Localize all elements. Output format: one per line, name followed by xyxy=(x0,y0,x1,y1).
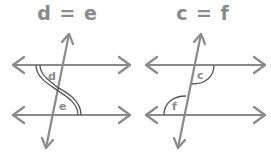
transversal-line xyxy=(178,34,201,148)
diagram-c-equals-f: c = f c f xyxy=(135,0,271,156)
parallel-lines-transversal-figure: c f xyxy=(135,0,271,156)
angle-label-d: d xyxy=(48,70,56,83)
parallel-lines-transversal-figure: d e xyxy=(0,0,135,156)
angle-label-c: c xyxy=(197,69,204,82)
angle-label-f: f xyxy=(172,100,177,113)
angle-label-e: e xyxy=(59,100,66,113)
diagram-d-equals-e: d = e d e xyxy=(0,0,135,156)
